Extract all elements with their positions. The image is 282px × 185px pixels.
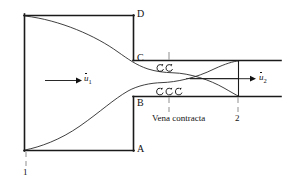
velocity-1-symbol: u — [84, 74, 89, 83]
label-station-1: 1 — [23, 168, 28, 177]
eddy-group-top — [157, 64, 173, 71]
label-velocity-2: u2 — [259, 73, 267, 84]
streamline-lower — [25, 61, 239, 150]
eddy-icon — [175, 88, 182, 95]
outlet-velocity-arrow-head — [250, 76, 256, 82]
streamline-upper — [25, 16, 239, 96]
duct-walls — [24, 14, 281, 151]
eddy-icon — [157, 88, 164, 95]
label-corner-a: A — [137, 144, 144, 154]
eddy-icon — [166, 64, 173, 71]
label-corner-d: D — [137, 9, 144, 19]
label-station-2: 2 — [235, 114, 240, 123]
label-vena-contracta: Vena contracta — [152, 114, 205, 123]
eddy-icon — [166, 88, 173, 95]
label-corner-b: B — [137, 98, 144, 108]
eddy-group-bottom — [157, 88, 182, 95]
streamlines — [25, 16, 239, 150]
vena-contracta-diagram — [0, 0, 282, 185]
eddy-icon — [157, 64, 164, 71]
label-velocity-1: u1 — [84, 74, 92, 85]
label-corner-c: C — [137, 53, 144, 63]
inlet-velocity-arrow-head — [76, 78, 82, 84]
velocity-arrows — [45, 76, 256, 84]
velocity-2-symbol: u — [259, 73, 264, 82]
